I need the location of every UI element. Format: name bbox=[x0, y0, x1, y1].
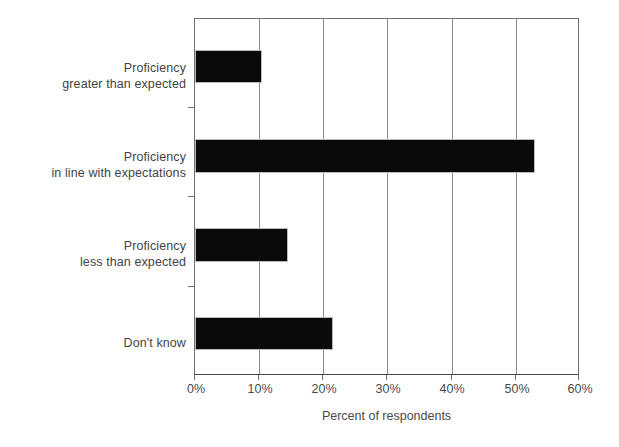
bar-proficiency-greater-than-expected bbox=[195, 50, 262, 83]
bar-proficiency-in-line-with-expectations bbox=[195, 139, 535, 173]
xtick-40 bbox=[451, 375, 452, 380]
gridline-40pct bbox=[452, 19, 453, 374]
bar-dont-know bbox=[195, 317, 333, 350]
category-label-proficiency-less-than-expected: Proficiency less than expected bbox=[0, 238, 186, 270]
bar-proficiency-less-than-expected bbox=[195, 228, 288, 262]
value-axis-tick-labels: 0% 10% 20% 30% 40% 50% 60% bbox=[0, 381, 619, 401]
gridline-50pct bbox=[516, 19, 517, 374]
xtick-10 bbox=[258, 375, 259, 380]
xtick-label-60: 60% bbox=[567, 381, 592, 397]
xtick-label-40: 40% bbox=[439, 381, 464, 397]
xtick-50 bbox=[515, 375, 516, 380]
xtick-label-20: 20% bbox=[311, 381, 336, 397]
xtick-label-0: 0% bbox=[187, 381, 205, 397]
xtick-20 bbox=[322, 375, 323, 380]
x-axis-title: Percent of respondents bbox=[194, 408, 579, 424]
xtick-label-50: 50% bbox=[504, 381, 529, 397]
plot-area bbox=[194, 18, 579, 375]
xtick-30 bbox=[386, 375, 387, 380]
xtick-label-10: 10% bbox=[247, 381, 272, 397]
category-label-dont-know: Don't know bbox=[0, 335, 186, 351]
xtick-60 bbox=[578, 375, 579, 380]
bar-chart: Proficiency greater than expected Profic… bbox=[0, 0, 619, 447]
category-axis-labels: Proficiency greater than expected Profic… bbox=[0, 18, 186, 375]
xtick-0 bbox=[194, 375, 195, 380]
gridline-30pct bbox=[387, 19, 388, 374]
category-label-proficiency-greater-than-expected: Proficiency greater than expected bbox=[0, 60, 186, 92]
xtick-label-30: 30% bbox=[375, 381, 400, 397]
category-label-proficiency-in-line-with-expectations: Proficiency in line with expectations bbox=[0, 149, 186, 181]
